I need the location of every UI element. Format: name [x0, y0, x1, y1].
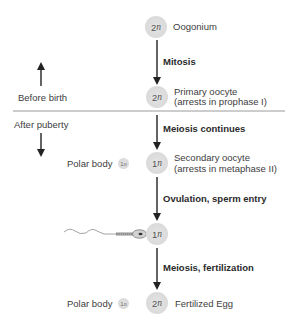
ploidy-n: n [157, 229, 162, 239]
primary-oocyte-note: (arrests in prophase I) [174, 96, 267, 107]
mitosis-label: Mitosis [163, 56, 196, 67]
after-puberty-label: After puberty [14, 119, 68, 130]
ploidy-n: n [157, 298, 162, 308]
oogonium-cell: 2n [145, 16, 167, 38]
polar-body-cell: 1n [118, 158, 129, 169]
polar-body-cell: 1n [118, 298, 129, 309]
meiosis-continues-arrow [153, 115, 161, 150]
meiosis-continues-label: Meiosis continues [163, 123, 245, 134]
fertilized-egg-label: Fertilized Egg [175, 298, 233, 309]
secondary-oocyte-label: Secondary oocyte [174, 152, 250, 163]
mitosis-arrow [153, 40, 161, 85]
secondary-oocyte-cell: 1n [146, 152, 168, 174]
ploidy-n: n [124, 161, 127, 167]
sperm-icon [64, 229, 147, 238]
ploidy-n: n [156, 22, 161, 32]
ovulation-label: Ovulation, sperm entry [163, 193, 266, 204]
secondary-oocyte-note: (arrests in metaphase II) [174, 163, 277, 174]
after-puberty-arrow [37, 133, 45, 157]
ploidy-n: n [124, 301, 127, 307]
ovulated-egg-cell: 1n [146, 223, 168, 245]
fertilized-egg-cell: 2n [146, 292, 168, 314]
ovulation-arrow [153, 177, 161, 221]
ploidy-n: n [157, 158, 162, 168]
fertilization-arrow [153, 248, 161, 290]
polar-body-label: Polar body [67, 298, 112, 309]
primary-oocyte-cell: 2n [146, 86, 168, 108]
polar-body-label: Polar body [67, 158, 112, 169]
fertilization-label: Meiosis, fertilization [163, 262, 254, 273]
before-birth-arrow [37, 62, 45, 86]
before-birth-label: Before birth [18, 92, 67, 103]
oogonium-label: Oogonium [173, 21, 217, 32]
ploidy-n: n [157, 92, 162, 102]
